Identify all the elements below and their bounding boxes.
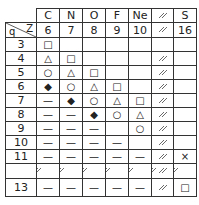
col-header-element: O: [83, 9, 106, 23]
table-row: 9 — — — ○: [6, 122, 197, 136]
table-cell: △: [83, 80, 106, 94]
break-column-cell: [152, 52, 174, 66]
table-cell: □: [60, 52, 83, 66]
table-cell: —: [37, 108, 60, 122]
break-column-cell: [152, 179, 174, 197]
break-cell: [106, 164, 129, 179]
table-cell: [106, 66, 129, 80]
row-label-q: 10: [6, 136, 37, 150]
table-cell: [174, 66, 197, 80]
table-cell: —: [83, 179, 106, 197]
axis-break-icon: [83, 168, 88, 173]
axis-break-icon: [37, 168, 42, 173]
table-cell: [174, 38, 197, 52]
header-row-z: q Z 6 7 8 9 10 16: [6, 23, 197, 38]
break-column-cell: [152, 23, 174, 38]
break-cell: [60, 164, 83, 179]
table-row: 11 — — — — — ×: [6, 150, 197, 164]
table-cell: [106, 52, 129, 66]
table-cell: [129, 52, 152, 66]
table-cell: —: [60, 179, 83, 197]
break-column-cell: [152, 122, 174, 136]
col-axis-label: Z: [26, 24, 33, 34]
row-label-q: 11: [6, 150, 37, 164]
break-column-cell: [152, 150, 174, 164]
table-cell: —: [60, 108, 83, 122]
break-column-cell: [152, 66, 174, 80]
col-header-z: 16: [174, 23, 197, 38]
table-cell: ○: [60, 80, 83, 94]
table-cell: —: [129, 179, 152, 197]
table-cell: ◆: [60, 94, 83, 108]
axis-break-icon: [174, 168, 179, 173]
table-cell: [83, 52, 106, 66]
table-cell: ○: [37, 66, 60, 80]
table-row: 3 □: [6, 38, 197, 52]
table-cell: △: [60, 66, 83, 80]
axis-break-icon: [159, 140, 167, 145]
axis-break-icon: [106, 168, 111, 173]
break-cell: [83, 164, 106, 179]
col-header-element: N: [60, 9, 83, 23]
row-label-q: 5: [6, 66, 37, 80]
axis-break-icon: [159, 56, 167, 61]
table-cell: —: [60, 122, 83, 136]
table-cell: —: [37, 179, 60, 197]
table-cell: —: [60, 150, 83, 164]
row-label-q: 6: [6, 80, 37, 94]
table-cell: —: [37, 94, 60, 108]
table-cell: ○: [129, 122, 152, 136]
table-cell: □: [129, 94, 152, 108]
axis-break-icon: [159, 168, 167, 173]
break-cell: [152, 164, 174, 179]
table-cell: ◆: [37, 80, 60, 94]
table-cell: △: [106, 94, 129, 108]
break-column-cell: [152, 38, 174, 52]
table-cell: [129, 66, 152, 80]
table-cell: [106, 122, 129, 136]
table-cell: —: [60, 136, 83, 150]
table-row: 4 △ □: [6, 52, 197, 66]
table-cell: —: [106, 136, 129, 150]
axis-break-icon: [152, 168, 157, 173]
col-header-z: 8: [83, 23, 106, 38]
table-cell: [129, 136, 152, 150]
table-cell: ○: [83, 94, 106, 108]
table-cell: △: [37, 52, 60, 66]
table-cell: □: [106, 80, 129, 94]
col-header-z: 10: [129, 23, 152, 38]
col-header-z: 9: [106, 23, 129, 38]
table-cell: [174, 80, 197, 94]
col-header-z: 7: [60, 23, 83, 38]
table-row: 8 — — ◆ ○ △: [6, 108, 197, 122]
axis-break-icon: [159, 154, 167, 159]
table-cell: □: [37, 38, 60, 52]
table-row: 7 — ◆ ○ △ □: [6, 94, 197, 108]
table-cell: □: [83, 66, 106, 80]
table-cell: —: [37, 136, 60, 150]
empty-corner: [6, 9, 37, 23]
axis-break-icon: [60, 168, 65, 173]
break-cell: [129, 164, 152, 179]
charge-state-table: C N O F Ne S q Z 6 7 8 9 10 16 3 □: [5, 8, 197, 197]
break-column-cell: [152, 80, 174, 94]
axis-break-row: [6, 164, 197, 179]
table-cell: —: [106, 179, 129, 197]
col-header-element: S: [174, 9, 197, 23]
break-column-cell: [152, 94, 174, 108]
table-cell: —: [37, 150, 60, 164]
table-cell: [83, 38, 106, 52]
table-cell: [174, 136, 197, 150]
table-cell: ×: [174, 150, 197, 164]
col-header-z: 6: [37, 23, 60, 38]
break-cell: [174, 164, 197, 179]
table-cell: △: [129, 108, 152, 122]
axis-break-icon: [159, 13, 167, 18]
table-cell: [174, 52, 197, 66]
row-label-q: 8: [6, 108, 37, 122]
col-header-element: C: [37, 9, 60, 23]
table-cell: [174, 108, 197, 122]
table-cell: —: [83, 122, 106, 136]
table-row: 5 ○ △ □: [6, 66, 197, 80]
table-cell: [106, 38, 129, 52]
